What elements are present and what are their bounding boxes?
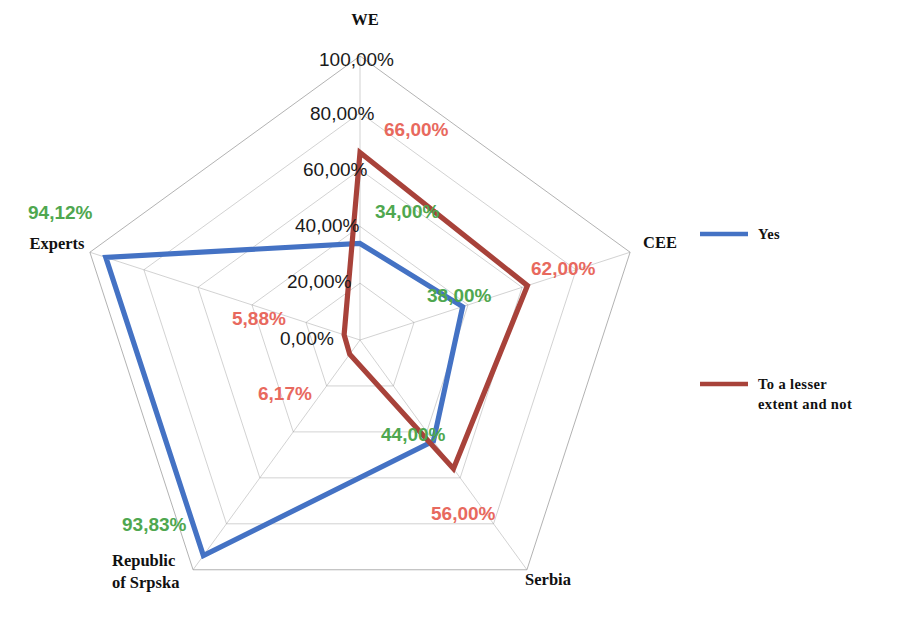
radar-grid	[90, 56, 630, 570]
axis-label-we: WE	[351, 10, 379, 29]
category-axis-labels: WECEESerbiaExpertsRepublicof Srpska	[30, 10, 677, 592]
value-label-srpska-yes: 93,83%	[122, 514, 187, 535]
radial-tick-label: 60,00%	[303, 159, 368, 180]
value-label-we-lesser: 66,00%	[384, 119, 449, 140]
axis-label-republic-of-srpska-line2: of Srpska	[112, 573, 179, 592]
value-label-experts-lesser: 5,88%	[232, 308, 286, 329]
grid-spoke	[193, 340, 360, 570]
value-label-srpska-lesser: 6,17%	[258, 383, 312, 404]
value-label-serbia-lesser: 56,00%	[431, 503, 496, 524]
value-label-serbia-yes: 44,00%	[381, 424, 446, 445]
axis-label-republic-of-srpska-line1: Republic	[112, 551, 175, 570]
legend-label-yes: Yes	[758, 226, 780, 242]
legend-label-lesser-line2: extent and not	[758, 396, 852, 412]
value-label-we-yes: 34,00%	[375, 201, 440, 222]
chart-legend: Yes To a lesser extent and not	[700, 226, 852, 412]
radial-tick-label: 100,00%	[319, 49, 394, 70]
radial-tick-label: 20,00%	[287, 271, 352, 292]
legend-label-lesser-line1: To a lesser	[758, 376, 827, 392]
value-label-cee-yes: 38,00%	[427, 285, 492, 306]
radial-tick-label: 0,00%	[280, 328, 334, 349]
value-label-cee-lesser: 62,00%	[531, 258, 596, 279]
radial-tick-label: 40,00%	[295, 215, 360, 236]
axis-label-serbia: Serbia	[525, 570, 571, 589]
value-label-experts-yes: 94,12%	[28, 202, 93, 223]
radial-tick-label: 80,00%	[310, 103, 375, 124]
radar-chart-root: 100,00%80,00%60,00%40,00%20,00%0,00% WEC…	[0, 0, 909, 629]
axis-label-cee: CEE	[643, 233, 677, 252]
axis-label-experts: Experts	[30, 234, 86, 253]
radar-chart-svg: 100,00%80,00%60,00%40,00%20,00%0,00% WEC…	[0, 0, 909, 629]
radial-tick-labels: 100,00%80,00%60,00%40,00%20,00%0,00%	[280, 49, 394, 349]
